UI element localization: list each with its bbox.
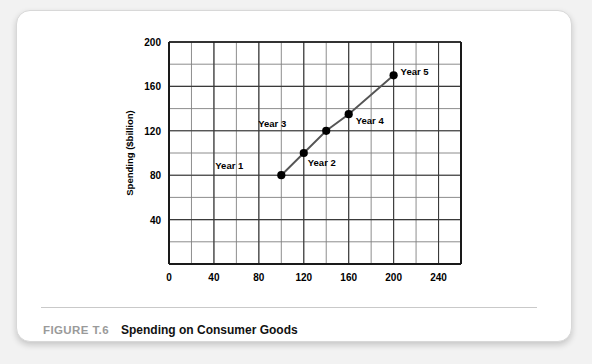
y-axis-title: Spending ($billion): [124, 110, 135, 196]
data-point-marker: [277, 171, 285, 179]
figure-title-label: Spending on Consumer Goods: [121, 323, 298, 337]
x-tick-label: 0: [166, 272, 172, 283]
data-point-label: Year 3: [258, 118, 286, 129]
data-point-marker: [345, 110, 353, 118]
data-point-label: Year 1: [215, 160, 244, 171]
y-tick-label: 120: [144, 126, 161, 137]
x-tick-label: 160: [340, 272, 357, 283]
data-point-label: Year 5: [401, 66, 430, 77]
x-tick-label: 120: [295, 272, 312, 283]
figure-number-label: FIGURE T.6: [43, 324, 109, 336]
y-tick-label: 200: [144, 37, 161, 48]
data-point-marker: [390, 71, 398, 79]
y-tick-label: 80: [150, 170, 162, 181]
figure-caption: FIGURE T.6 Spending on Consumer Goods: [43, 319, 543, 341]
x-tick-label: 200: [385, 272, 402, 283]
figure-card: 040801201602002404080120160200 Year 1Yea…: [16, 10, 572, 342]
y-tick-label: 40: [150, 215, 162, 226]
caption-divider: [41, 307, 537, 308]
data-point-label: Year 4: [356, 115, 385, 126]
x-tick-label: 40: [208, 272, 220, 283]
x-tick-label: 80: [253, 272, 265, 283]
consumer-goods-line-chart: 040801201602002404080120160200 Year 1Yea…: [17, 11, 573, 291]
y-tick-label: 160: [144, 81, 161, 92]
data-point-label: Year 2: [308, 157, 336, 168]
point-label-layer: Year 1Year 2Year 3Year 4Year 5: [215, 66, 429, 171]
data-point-marker: [300, 149, 308, 157]
x-axis-title: Disposable income ($billion): [251, 290, 380, 291]
data-point-marker: [322, 127, 330, 135]
chart-plot-region: 040801201602002404080120160200 Year 1Yea…: [17, 11, 573, 291]
x-tick-label: 240: [430, 272, 447, 283]
